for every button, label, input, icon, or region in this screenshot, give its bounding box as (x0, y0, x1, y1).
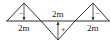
center-sign: + (61, 25, 66, 34)
influence-line-diagram: − + − 2m 2m 2m (0, 0, 111, 43)
center-length-label: 2m (52, 9, 64, 19)
right-length-label: 2m (87, 23, 99, 33)
right-sign: − (95, 9, 100, 18)
center-arrow-head-icon (57, 22, 60, 26)
diagram-canvas: − + − 2m 2m 2m (0, 0, 111, 43)
right-triangle (75, 3, 109, 21)
left-sign: − (19, 9, 24, 18)
left-length-label: 2m (18, 23, 30, 33)
